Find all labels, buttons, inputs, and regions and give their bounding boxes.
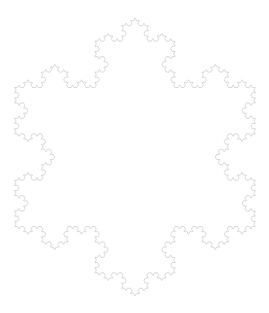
koch-snowflake-outline bbox=[15, 18, 256, 296]
drawing-canvas bbox=[0, 0, 269, 313]
koch-snowflake-figure bbox=[0, 0, 269, 313]
